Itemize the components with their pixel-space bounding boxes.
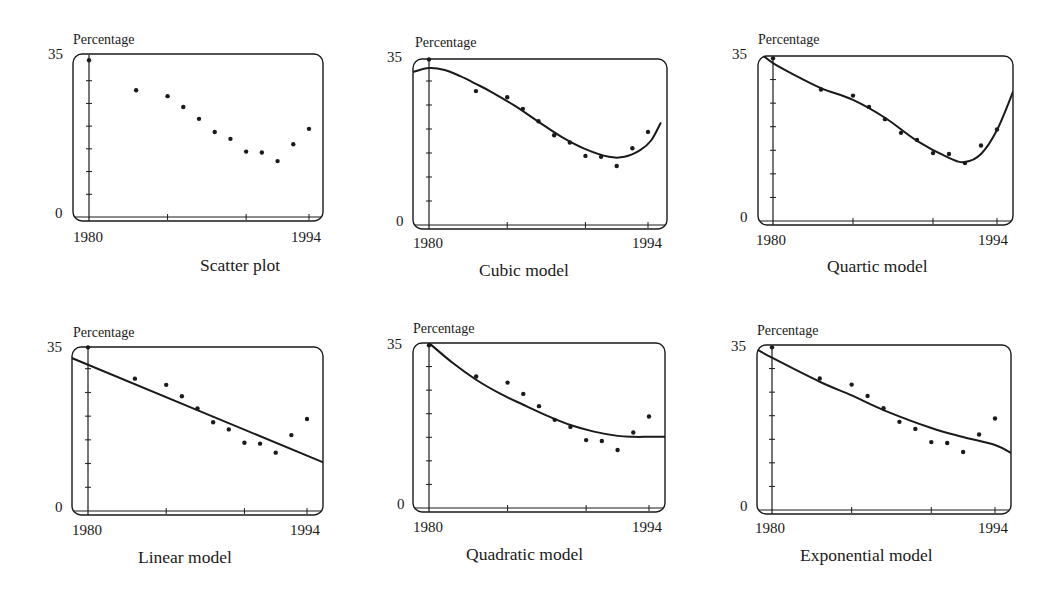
data-point <box>993 416 997 420</box>
data-point <box>770 345 774 349</box>
data-point <box>849 382 853 386</box>
data-point <box>961 450 965 454</box>
data-point <box>897 420 901 424</box>
chart-exponential-svg <box>0 0 1053 597</box>
data-point <box>881 406 885 410</box>
data-point <box>913 427 917 431</box>
model-curve <box>756 349 1011 453</box>
y-tick-label-min: 0 <box>740 499 748 514</box>
y-tick-label-max: 35 <box>731 339 746 354</box>
x-tick-label-end: 1994 <box>978 521 1008 536</box>
data-point <box>929 440 933 444</box>
data-point <box>977 432 981 436</box>
data-point <box>865 394 869 398</box>
data-point <box>818 376 822 380</box>
data-point <box>945 441 949 445</box>
y-axis-label: Percentage <box>757 324 818 338</box>
chart-title: Exponential model <box>800 547 933 565</box>
x-tick-label-start: 1980 <box>755 521 785 536</box>
